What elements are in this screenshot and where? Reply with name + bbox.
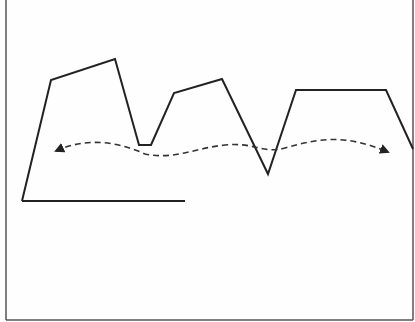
diagram-svg [0,0,415,322]
jagged-solid-line [22,59,413,201]
diagram-canvas [0,0,415,322]
dashed-double-arrow [56,140,388,156]
